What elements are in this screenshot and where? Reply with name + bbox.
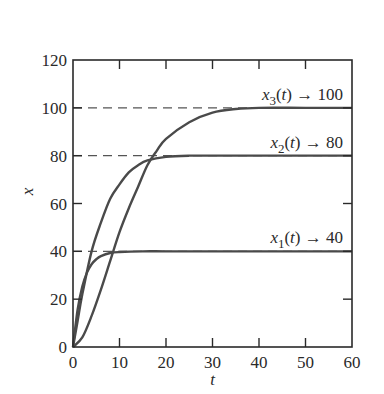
x-tick-label: 20 xyxy=(158,353,175,372)
line-chart: 0102030405060 020406080100120 t x x1(t) … xyxy=(0,0,384,394)
curve-annotations: x1(t) → 40x2(t) → 80x3(t) → 100 xyxy=(261,85,343,252)
y-tick-label: 100 xyxy=(42,99,68,118)
y-tick-label: 20 xyxy=(50,290,67,309)
annotation-x2t: x2(t) → 80 xyxy=(269,133,343,156)
annotation-x3t: x3(t) → 100 xyxy=(261,85,343,108)
x-tick-label: 0 xyxy=(69,353,78,372)
x-tick-label: 50 xyxy=(297,353,314,372)
x-tick-label: 60 xyxy=(344,353,361,372)
x-tick-label: 40 xyxy=(251,353,268,372)
y-axis-label: x xyxy=(18,187,37,196)
y-tick-labels: 020406080100120 xyxy=(42,51,68,357)
x-tick-label: 10 xyxy=(111,353,128,372)
y-tick-label: 120 xyxy=(42,51,68,70)
y-tick-label: 60 xyxy=(50,195,67,214)
y-tick-label: 80 xyxy=(50,147,67,166)
annotation-x1t: x1(t) → 40 xyxy=(269,228,343,251)
y-tick-label: 0 xyxy=(59,338,68,357)
curve-x1t xyxy=(73,251,352,347)
x-axis-label: t xyxy=(210,370,216,389)
y-tick-label: 40 xyxy=(50,242,67,261)
